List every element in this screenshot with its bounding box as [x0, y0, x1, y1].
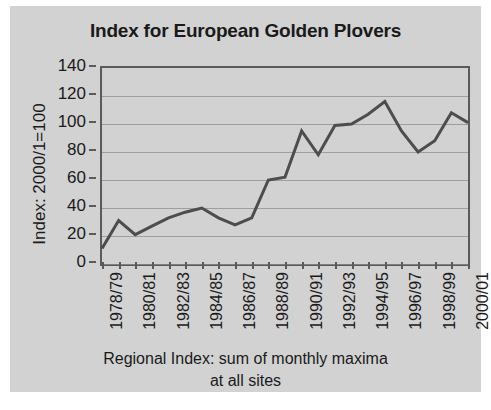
x-tick-label: 1978/79	[108, 272, 126, 330]
x-tick-mark	[169, 262, 171, 269]
x-tick-mark	[135, 262, 137, 269]
y-tick-mark	[89, 65, 96, 67]
y-tick-mark	[89, 261, 96, 263]
x-tick-mark	[119, 262, 121, 269]
y-tick-mark	[89, 233, 96, 235]
x-tick-label: 1992/93	[341, 272, 359, 330]
x-tick-mark	[102, 262, 104, 269]
y-tick-label: 40	[67, 196, 86, 216]
x-tick-label: 1998/99	[441, 272, 459, 330]
x-tick-mark	[368, 262, 370, 269]
x-tick-label: 1994/95	[374, 272, 392, 330]
x-tick-label: 1980/81	[141, 272, 159, 330]
x-tick-mark	[318, 262, 320, 269]
x-tick-mark	[302, 262, 304, 269]
x-tick-label: 2000/01	[474, 272, 491, 330]
x-tick-label: 1996/97	[407, 272, 425, 330]
x-tick-mark	[435, 262, 437, 269]
x-tick-mark	[401, 262, 403, 269]
x-axis-ticks: 1978/791980/811982/831984/851986/871988/…	[100, 272, 470, 346]
x-tick-mark	[252, 262, 254, 269]
y-tick-label: 0	[77, 252, 86, 272]
y-tick-mark	[89, 93, 96, 95]
x-axis-tickmarks	[100, 262, 470, 270]
chart-title: Index for European Golden Plovers	[10, 20, 481, 42]
y-tick-label: 60	[67, 168, 86, 188]
y-tick-label: 80	[67, 140, 86, 160]
plot-area	[100, 66, 470, 266]
x-tick-mark	[235, 262, 237, 269]
y-tick-label: 100	[58, 112, 86, 132]
x-tick-label: 1982/83	[175, 272, 193, 330]
x-tick-mark	[335, 262, 337, 269]
y-tick-mark	[89, 205, 96, 207]
x-tick-mark	[185, 262, 187, 269]
data-line-series	[102, 68, 468, 264]
x-tick-mark	[418, 262, 420, 269]
x-tick-label: 1984/85	[208, 272, 226, 330]
x-tick-mark	[152, 262, 154, 269]
x-axis-title-line2: at all sites	[10, 370, 481, 392]
x-tick-label: 1990/91	[308, 272, 326, 330]
x-tick-label: 1988/89	[274, 272, 292, 330]
x-tick-mark	[268, 262, 270, 269]
y-tick-label: 140	[58, 56, 86, 76]
y-tick-mark	[89, 177, 96, 179]
x-tick-mark	[202, 262, 204, 269]
y-tick-mark	[89, 121, 96, 123]
x-tick-mark	[385, 262, 387, 269]
x-tick-mark	[468, 262, 470, 269]
x-axis-title: Regional Index: sum of monthly maxima at…	[10, 348, 481, 391]
x-tick-mark	[218, 262, 220, 269]
x-tick-label: 1986/87	[241, 272, 259, 330]
x-tick-mark	[285, 262, 287, 269]
x-tick-mark	[451, 262, 453, 269]
x-axis-title-line1: Regional Index: sum of monthly maxima	[10, 348, 481, 370]
y-axis-ticks: 020406080100120140	[10, 66, 96, 262]
y-tick-label: 120	[58, 84, 86, 104]
chart-figure: Index for European Golden Plovers Index:…	[10, 6, 481, 392]
x-tick-mark	[352, 262, 354, 269]
y-tick-mark	[89, 149, 96, 151]
y-tick-label: 20	[67, 224, 86, 244]
